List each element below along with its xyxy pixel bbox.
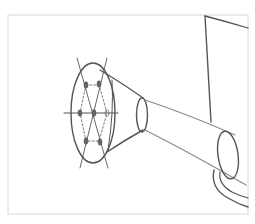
watering-can-sketch bbox=[0, 0, 255, 224]
sketch-canvas: Pencil sketch of a watering can spout wi… bbox=[0, 0, 255, 224]
picture-frame bbox=[8, 15, 248, 214]
